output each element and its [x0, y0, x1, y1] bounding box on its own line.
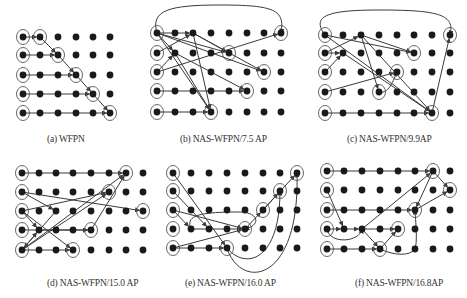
feature-node: [188, 226, 195, 233]
curved-connection: [156, 5, 282, 33]
feature-node: [106, 208, 113, 215]
feature-node: [341, 207, 348, 214]
feature-node: [188, 207, 195, 214]
feature-node: [447, 69, 454, 76]
feature-node: [411, 69, 418, 76]
feature-node: [411, 89, 418, 96]
feature-node: [394, 69, 401, 76]
feature-node: [140, 208, 147, 215]
feature-node: [188, 188, 195, 195]
feature-node: [430, 246, 437, 253]
feature-node: [107, 52, 114, 59]
feature-node: [19, 189, 26, 196]
feature-node: [37, 110, 44, 117]
feature-node: [19, 227, 26, 234]
feature-node: [123, 208, 130, 215]
feature-node: [70, 247, 77, 254]
feature-node: [394, 32, 401, 39]
feature-node: [429, 32, 436, 39]
feature-node: [106, 170, 113, 177]
feature-node: [447, 32, 454, 39]
feature-node: [226, 30, 233, 37]
feature-node: [123, 170, 130, 177]
feature-node: [140, 170, 147, 177]
feature-node: [208, 88, 215, 95]
feature-node: [322, 50, 329, 57]
panel-caption-f: (f) NAS-WFPN/16.8AP: [355, 278, 443, 288]
feature-node: [70, 227, 77, 234]
feature-node: [73, 72, 80, 79]
feature-node: [376, 89, 383, 96]
panel-e: [167, 166, 304, 273]
connection-arrow: [362, 173, 430, 229]
feature-node: [88, 247, 95, 254]
feature-node: [242, 188, 249, 195]
feature-node: [36, 208, 43, 215]
feature-node: [90, 110, 97, 117]
feature-node: [324, 168, 331, 175]
feature-node: [226, 50, 233, 57]
feature-node: [277, 226, 284, 233]
connection-arrow: [91, 176, 124, 230]
feature-node: [206, 245, 213, 252]
feature-node: [294, 207, 301, 214]
feature-node: [55, 34, 62, 41]
feature-node: [294, 226, 301, 233]
feature-node: [172, 109, 179, 116]
feature-node: [260, 245, 267, 252]
feature-node: [88, 170, 95, 177]
feature-node: [395, 207, 402, 214]
feature-node: [20, 52, 27, 59]
connection-arrow: [361, 35, 378, 89]
feature-node: [73, 52, 80, 59]
feature-node: [377, 168, 384, 175]
feature-node: [277, 170, 284, 177]
feature-node: [37, 72, 44, 79]
feature-node: [224, 170, 231, 177]
feature-node: [412, 246, 419, 253]
feature-node: [377, 207, 384, 214]
feature-node: [411, 50, 418, 57]
feature-node: [154, 88, 161, 95]
connection-arrow: [432, 38, 449, 113]
feature-node: [358, 50, 365, 57]
panel-caption-c: (c) NAS-WFPN/9.9AP: [347, 134, 432, 144]
connection-arrow: [22, 193, 106, 211]
feature-node: [106, 227, 113, 234]
feature-node: [358, 89, 365, 96]
panel-d: [16, 166, 150, 258]
feature-node: [106, 247, 113, 254]
feature-node: [107, 72, 114, 79]
feature-node: [412, 168, 419, 175]
feature-node: [20, 110, 27, 117]
feature-node: [90, 72, 97, 79]
feature-node: [224, 207, 231, 214]
feature-node: [447, 207, 454, 214]
panel-caption-a: (a) WFPN: [47, 134, 85, 144]
feature-node: [170, 188, 177, 195]
feature-node: [90, 91, 97, 98]
feature-node: [226, 88, 233, 95]
feature-node: [395, 226, 402, 233]
connection-arrow: [22, 194, 106, 250]
connection-arrow: [415, 192, 447, 210]
feature-node: [36, 170, 43, 177]
feature-node: [244, 88, 251, 95]
feature-node: [429, 110, 436, 117]
feature-node: [208, 50, 215, 57]
panel-caption-d: (d) NAS-WFPN/15.0 AP: [47, 278, 138, 288]
feature-node: [340, 69, 347, 76]
feature-node: [395, 187, 402, 194]
feature-node: [359, 187, 366, 194]
feature-node: [358, 32, 365, 39]
feature-node: [226, 69, 233, 76]
feature-node: [37, 91, 44, 98]
feature-node: [322, 69, 329, 76]
feature-node: [172, 30, 179, 37]
feature-node: [107, 91, 114, 98]
feature-node: [340, 89, 347, 96]
panel-c: [319, 10, 457, 121]
feature-node: [53, 247, 60, 254]
feature-node: [19, 170, 26, 177]
feature-node: [322, 89, 329, 96]
